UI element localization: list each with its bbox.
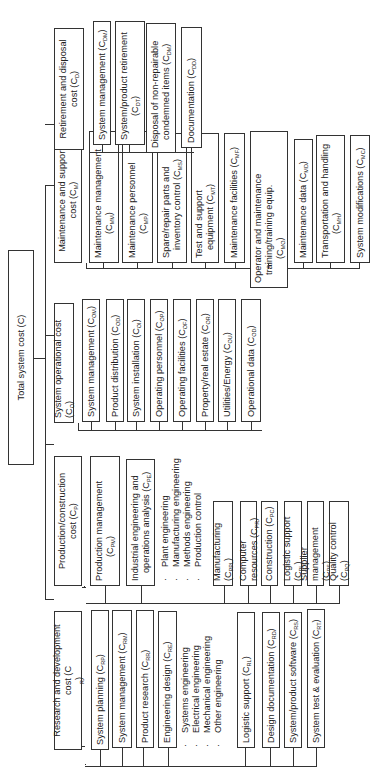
connector: [91, 422, 92, 431]
connector: [270, 748, 271, 767]
connector: [293, 748, 294, 767]
category-rd-box: Research and development cost (CR): [54, 611, 82, 750]
maintenance-data: Maintenance data (CMD): [294, 139, 313, 263]
operational-operating-facilities: Operating facilities (COF): [173, 299, 191, 422]
connector: [359, 263, 360, 269]
connector: [34, 358, 45, 359]
rd-product-research: Product research (CRR): [136, 610, 154, 748]
connector: [137, 263, 138, 269]
connector: [45, 599, 54, 600]
production-construction: Construction (CPC): [261, 501, 278, 586]
rd-system-test-evaluation: System test & evaluation (CRT): [307, 609, 325, 748]
connector: [89, 150, 90, 153]
connector: [227, 422, 228, 431]
production-bus: [86, 603, 340, 604]
connector: [143, 748, 144, 767]
connector: [168, 748, 169, 767]
retirement-system-product-retirement: System/product retirement (CDT): [115, 21, 145, 145]
category-maintenance-box: Maintenance and support cost (CM): [54, 137, 82, 263]
connector: [141, 586, 142, 604]
production-bus: [84, 586, 85, 587]
connector: [330, 263, 331, 269]
production-industrial-engineering: Industrial engineering and operations an…: [126, 459, 155, 586]
root-label: Total system cost (C): [16, 315, 27, 401]
rd-engineering-design: Engineering design (CRE): [158, 611, 177, 748]
operational-product-distribution: Product distribution (COD): [106, 299, 124, 422]
cost-breakdown-diagram: Total system cost (C) Research and devel…: [0, 0, 377, 783]
connector: [100, 750, 101, 767]
connector: [248, 586, 249, 604]
connector: [45, 185, 54, 186]
connector: [122, 748, 123, 767]
operational-system-installation: System installation (COI): [127, 299, 145, 422]
connector: [172, 263, 173, 269]
retirement-bus: [89, 152, 194, 153]
connector: [103, 263, 104, 269]
operational-utilities-energy: Utilities/Energy (COU): [218, 299, 236, 422]
connector: [339, 586, 340, 604]
maintenance-facilities: Maintenance facilities (CMF): [224, 133, 245, 263]
production-management: Production management (CPM): [90, 456, 120, 586]
connector: [82, 746, 85, 747]
connector: [245, 748, 246, 767]
category-retirement-box: Retirement and disposal cost (CD): [54, 28, 84, 150]
rd-design-documentation: Design documentation (CRD): [262, 612, 280, 748]
connector: [86, 263, 87, 269]
connector: [129, 145, 130, 153]
connector: [268, 263, 269, 269]
production-computer-resources: Computer resources (CPR): [240, 501, 257, 586]
category-operational-box: System operational cost (CO): [54, 303, 74, 423]
connector: [270, 586, 271, 604]
rd-system-planning: System planning (CRP): [91, 610, 109, 750]
production-manufacturing: Manufacturing (CPPL): [213, 501, 233, 586]
connector: [136, 422, 137, 431]
connector: [251, 422, 252, 431]
maintenance-bus: [86, 268, 360, 269]
connector: [303, 263, 304, 269]
rd-system-management: System management (CRM): [112, 610, 132, 748]
connector: [224, 586, 225, 604]
connector: [316, 586, 317, 604]
connector: [45, 124, 54, 125]
operational-system-management: System management (COM): [82, 299, 100, 422]
rd-bus: [85, 766, 317, 767]
maintenance-transportation-handling: Transportation and handling (CMH): [316, 135, 345, 263]
production-supplier-management: Supplier management (CPS): [307, 501, 324, 586]
operational-operating-personnel: Operating personnel (COP): [150, 299, 168, 422]
maintenance-system-modifications: System modifications (CMC): [350, 135, 370, 263]
category-production-box: Production/construction cost (CP): [54, 456, 82, 586]
connector: [235, 263, 236, 269]
connector: [78, 423, 79, 431]
retirement-disposal-non-repairable: Disposal of non-repairable condemned ite…: [146, 23, 176, 153]
connector: [105, 586, 106, 604]
operational-bus: [78, 430, 262, 431]
operational-operational-data: Operational data (COD): [241, 299, 261, 422]
root-total-system-cost: Total system cost (C): [8, 250, 34, 465]
production-quality-control: Quality control (CPQ): [329, 501, 349, 586]
production-engineering-list: ·Plant engineering ·Manufacturing engine…: [160, 458, 204, 581]
rd-engineering-list: ·Systems engineering ·Electrical enginee…: [180, 636, 224, 747]
trunk-connector: [45, 185, 46, 600]
connector: [293, 586, 294, 604]
rd-system-product-software: System/product software (CRS): [284, 612, 302, 748]
connector: [316, 748, 317, 767]
connector: [115, 422, 116, 431]
operational-property-real-estate: Property/real estate (COR): [196, 299, 214, 422]
retirement-system-management: System management (CDM): [93, 21, 111, 145]
connector: [205, 263, 206, 269]
connector: [191, 148, 192, 153]
connector: [159, 422, 160, 431]
connector: [182, 422, 183, 431]
connector: [205, 422, 206, 431]
connector: [45, 444, 54, 445]
maintenance-test-support-equipment: Test and support equipment (CMT): [191, 133, 219, 263]
retirement-documentation: Documentation (CDD): [181, 27, 202, 148]
rd-logistic-support: Logistic support (CRL): [237, 612, 255, 748]
connector: [102, 145, 103, 153]
